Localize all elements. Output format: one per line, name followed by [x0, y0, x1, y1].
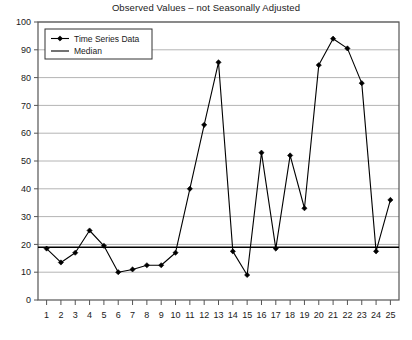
- legend-label-1: Time Series Data: [74, 34, 140, 44]
- series-line-group: [47, 39, 391, 275]
- series-marker: [373, 249, 378, 254]
- y-tick-label: 70: [21, 101, 31, 111]
- x-tick-label: 21: [328, 310, 338, 320]
- y-tick-label: 80: [21, 73, 31, 83]
- series-marker: [116, 270, 121, 275]
- series-marker: [359, 81, 364, 86]
- x-tick-label: 13: [213, 310, 223, 320]
- x-tick-label: 22: [342, 310, 352, 320]
- x-tick-label: 15: [242, 310, 252, 320]
- x-tick-label: 9: [159, 310, 164, 320]
- series-marker: [288, 153, 293, 158]
- x-tick-label: 10: [171, 310, 181, 320]
- x-tick-label: 5: [101, 310, 106, 320]
- series-marker: [316, 62, 321, 67]
- y-tick-label: 0: [26, 295, 31, 305]
- chart-plot: 0102030405060708090100 12345678910111213…: [0, 0, 412, 340]
- series-markers-group: [44, 36, 393, 277]
- x-tick-label: 11: [185, 310, 194, 320]
- y-tick-label: 10: [21, 267, 31, 277]
- x-tick-label: 14: [228, 310, 238, 320]
- x-tick-label: 25: [385, 310, 395, 320]
- x-tick-label: 7: [130, 310, 135, 320]
- series-marker: [388, 197, 393, 202]
- y-tick-label: 50: [21, 156, 31, 166]
- x-tick-label: 2: [58, 310, 63, 320]
- x-tick-label: 8: [144, 310, 149, 320]
- x-tick-label: 17: [271, 310, 281, 320]
- legend-label-2: Median: [74, 46, 102, 56]
- y-tick-label: 100: [16, 17, 31, 27]
- y-tick-label: 30: [21, 212, 31, 222]
- x-tick-label: 3: [73, 310, 78, 320]
- series-marker: [259, 150, 264, 155]
- y-tick-label: 60: [21, 128, 31, 138]
- x-tick-label: 12: [199, 310, 209, 320]
- series-marker: [144, 263, 149, 268]
- x-axis-ticks: 1234567891011121314151617181920212223242…: [44, 300, 395, 320]
- series-marker: [187, 186, 192, 191]
- x-tick-label: 23: [357, 310, 367, 320]
- y-tick-label: 20: [21, 240, 31, 250]
- series-line: [47, 39, 391, 275]
- series-marker: [230, 249, 235, 254]
- legend-box: Time Series DataMedian: [45, 29, 152, 59]
- series-marker: [302, 206, 307, 211]
- chart-container: Observed Values – not Seasonally Adjuste…: [0, 0, 412, 340]
- y-axis-ticks: 0102030405060708090100: [16, 17, 38, 305]
- x-tick-label: 18: [285, 310, 295, 320]
- y-tick-label: 90: [21, 45, 31, 55]
- x-tick-label: 4: [87, 310, 92, 320]
- x-tick-label: 1: [44, 310, 49, 320]
- x-tick-label: 24: [371, 310, 381, 320]
- x-tick-label: 16: [256, 310, 266, 320]
- x-tick-label: 20: [314, 310, 324, 320]
- series-marker: [202, 122, 207, 127]
- series-marker: [245, 272, 250, 277]
- series-marker: [216, 60, 221, 65]
- y-tick-label: 40: [21, 184, 31, 194]
- x-tick-label: 6: [116, 310, 121, 320]
- x-tick-label: 19: [299, 310, 309, 320]
- series-marker: [130, 267, 135, 272]
